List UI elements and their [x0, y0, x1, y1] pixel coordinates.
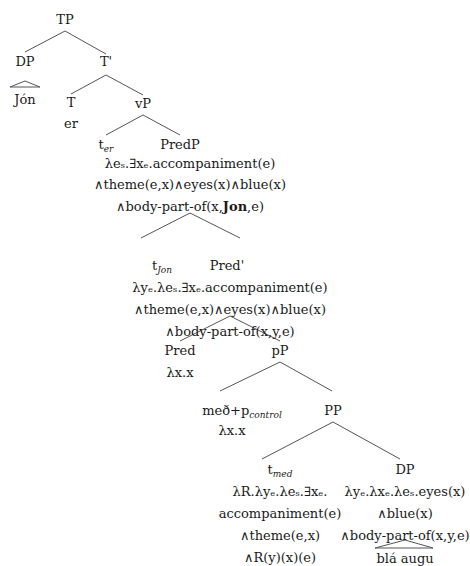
node-trace-med: tmed: [268, 462, 293, 482]
pred-sem: λx.x: [166, 365, 193, 380]
tmed-sem-line-1: λR.λyₑ.λeₛ.∃xₑ.: [233, 484, 328, 499]
node-t-bar: T': [100, 54, 112, 69]
leaf-er: er: [64, 116, 78, 131]
node-pred: Pred: [165, 343, 196, 358]
tmed-sem-line-3: ∧theme(e,x): [240, 528, 320, 543]
node-pp: PP: [324, 403, 342, 418]
node-trace-er: ter: [99, 137, 114, 157]
node-vp: vP: [135, 96, 151, 111]
leaf-jon: Jón: [14, 92, 35, 107]
trace-subscript: med: [273, 469, 293, 479]
trace-subscript: er: [104, 144, 114, 154]
node-predp: PredP: [160, 137, 200, 152]
predbar-sem-line-1: λyₑ.λeₛ.∃xₑ.accompaniment(e): [132, 280, 327, 295]
predp-sem-line-3: ∧body-part-of(x,Jon,e): [116, 199, 264, 214]
node-tp: TP: [56, 12, 73, 27]
tmed-sem-line-4: ∧R(y)(x)(e): [244, 550, 316, 565]
med-base: með+p: [202, 403, 249, 418]
node-pred-bar: Pred': [210, 258, 245, 273]
predp-sem-text: ∧body-part-of(x,: [116, 199, 223, 214]
node-trace-jon: tJon: [152, 258, 172, 278]
med-p-sem: λx.x: [218, 423, 245, 438]
predbar-sem-line-3: ∧body-part-of(x,y,e): [165, 324, 294, 339]
node-pp-small: pP: [271, 343, 288, 358]
trace-subscript: Jon: [157, 265, 172, 275]
node-med-p-control: með+pcontrol: [202, 403, 282, 423]
dp-sem-line-2: ∧blue(x): [377, 506, 433, 521]
predp-sem-line-2: ∧theme(e,x)∧eyes(x)∧blue(x): [94, 177, 286, 192]
dp-sem-line-1: λyₑ.λxₑ.λeₛ.eyes(x): [345, 484, 466, 499]
predp-sem-line-1: λeₛ.∃xₑ.accompaniment(e): [105, 156, 276, 171]
tmed-sem-line-2: accompaniment(e): [219, 506, 342, 521]
dp-sem-line-3: ∧body-part-of(x,y,e): [340, 528, 469, 543]
predp-sem-tail: ,e): [247, 199, 264, 214]
predp-bold-arg: Jon: [223, 199, 247, 214]
node-t: T: [67, 95, 76, 110]
predbar-sem-line-2: ∧theme(e,x)∧eyes(x)∧blue(x): [134, 302, 326, 317]
node-dp-subject: DP: [15, 54, 34, 69]
med-subscript: control: [249, 410, 281, 420]
leaf-bla-augu: blá augu: [376, 551, 433, 566]
node-dp-object: DP: [395, 462, 414, 477]
